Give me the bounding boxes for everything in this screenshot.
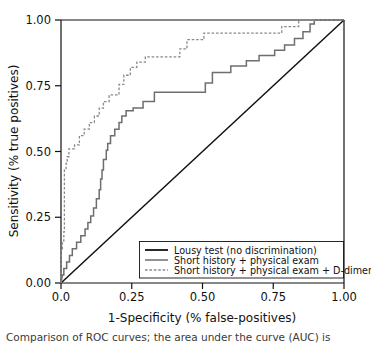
y-tick-label-025: 0.25 xyxy=(25,210,51,224)
x-tick-label-025: 0.25 xyxy=(119,290,145,304)
x-tick-label-1: 1.00 xyxy=(331,290,357,304)
y-tick-label-0: 0.00 xyxy=(25,276,51,290)
y-axis-title: Sensitivity (% true positives) xyxy=(7,65,21,238)
x-axis-title: 1-Specificity (% false-positives) xyxy=(108,311,296,325)
chart-legend: Lousy test (no discrimination) Short his… xyxy=(140,242,371,279)
x-tick-label-075: 0.75 xyxy=(260,290,286,304)
x-tick-label-050: 0.50 xyxy=(190,290,216,304)
y-tick-label-1: 1.00 xyxy=(25,13,51,27)
x-tick-label-0: 0.0 xyxy=(52,290,70,304)
figure-caption: Comparison of ROC curves; the area under… xyxy=(6,331,331,343)
y-tick-label-075: 0.75 xyxy=(25,79,51,93)
roc-chart: 1.00 0.75 0.50 0.25 0.00 0.0 0.25 0.50 0… xyxy=(0,0,371,343)
roc-curve-figure: 1.00 0.75 0.50 0.25 0.00 0.0 0.25 0.50 0… xyxy=(0,0,371,343)
y-tick-label-050: 0.50 xyxy=(25,145,51,159)
figure-caption-strip: Comparison of ROC curves; the area under… xyxy=(6,331,331,343)
legend-label-short-history-d-dimer: Short history + physical exam + D-dimer xyxy=(174,265,371,276)
